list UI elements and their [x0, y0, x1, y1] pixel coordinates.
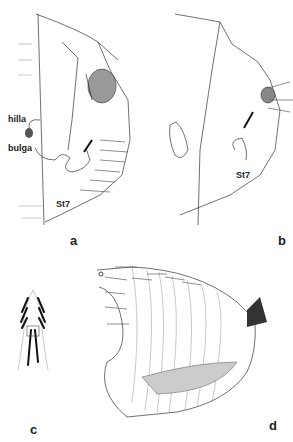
annotation-st7: St7 — [56, 199, 70, 209]
annotation-st7: St7 — [236, 170, 250, 180]
panel-d-drawing — [97, 262, 293, 442]
annotation-hilla: hilla — [8, 114, 26, 124]
panel-label-b: b — [278, 233, 286, 248]
panel-b-drawing — [150, 0, 293, 230]
panel-label-c: c — [30, 422, 37, 437]
panel-c-drawing — [0, 290, 90, 442]
panel-d: d — [97, 262, 293, 442]
panel-b: St7 b — [150, 0, 293, 230]
panel-c: c — [0, 290, 90, 442]
panel-a: hilla bulga St7 a — [0, 0, 150, 230]
annotation-bulga: bulga — [8, 143, 32, 153]
panel-label-a: a — [70, 233, 77, 248]
panel-label-d: d — [269, 418, 277, 433]
